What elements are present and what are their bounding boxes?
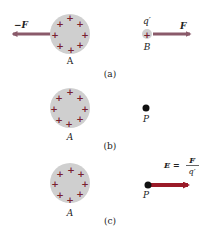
plus-charge: + bbox=[56, 169, 64, 179]
plus-charge: + bbox=[76, 189, 84, 199]
equation-lhs: E = bbox=[163, 160, 180, 170]
plus-charge: + bbox=[56, 190, 64, 200]
plus-charge: + bbox=[55, 115, 63, 125]
field-equation: E = F q′ bbox=[163, 155, 199, 176]
plus-charge: + bbox=[66, 195, 74, 205]
point-p bbox=[145, 182, 152, 189]
plus-charge: + bbox=[65, 119, 73, 129]
plus-charge: + bbox=[67, 165, 75, 175]
label-a: A bbox=[66, 208, 74, 218]
plus-charge: + bbox=[76, 93, 84, 103]
plus-charge: + bbox=[56, 19, 64, 29]
panel-a: −F + + + + + + + + A + q′ B F (a) bbox=[13, 13, 190, 79]
equation-numerator: F bbox=[188, 155, 196, 165]
electric-field-diagram: −F + + + + + + + + A + q′ B F (a) + + + bbox=[0, 0, 211, 235]
label-a: A bbox=[66, 132, 74, 142]
panel-c: + + + + + + + + A P E = F q′ (c) bbox=[50, 155, 199, 226]
plus-charge: + bbox=[81, 104, 89, 114]
plus-charge: + bbox=[66, 13, 74, 23]
equation-denominator: q′ bbox=[189, 167, 196, 176]
plus-charge: + bbox=[143, 30, 151, 40]
label-f: F bbox=[179, 21, 187, 31]
label-minus-f: −F bbox=[14, 20, 29, 30]
charged-sphere-a: + + + + + + + + bbox=[50, 163, 90, 205]
plus-charge: + bbox=[76, 40, 84, 50]
plus-charge: + bbox=[67, 45, 75, 55]
plus-charge: + bbox=[56, 41, 64, 51]
label-b: B bbox=[143, 42, 151, 52]
plus-charge: + bbox=[81, 179, 89, 189]
plus-charge: + bbox=[76, 19, 84, 29]
label-p: P bbox=[142, 190, 150, 200]
plus-charge: + bbox=[77, 169, 85, 179]
charged-sphere-a: + + + + + + + + bbox=[50, 13, 90, 55]
plus-charge: + bbox=[51, 179, 59, 189]
plus-charge: + bbox=[66, 87, 74, 97]
label-a: A bbox=[66, 56, 74, 66]
caption-b: (b) bbox=[104, 141, 117, 151]
plus-charge: + bbox=[81, 30, 89, 40]
plus-charge: + bbox=[50, 104, 58, 114]
charged-sphere-a: + + + + + + + + bbox=[50, 87, 90, 129]
point-p bbox=[143, 105, 150, 112]
plus-charge: + bbox=[55, 93, 63, 103]
plus-charge: + bbox=[76, 114, 84, 124]
label-q-prime: q′ bbox=[143, 16, 151, 26]
caption-c: (c) bbox=[104, 216, 116, 226]
plus-charge: + bbox=[51, 30, 59, 40]
caption-a: (a) bbox=[104, 69, 116, 79]
label-p: P bbox=[142, 114, 150, 124]
panel-b: + + + + + + + + A P (b) bbox=[50, 87, 150, 151]
